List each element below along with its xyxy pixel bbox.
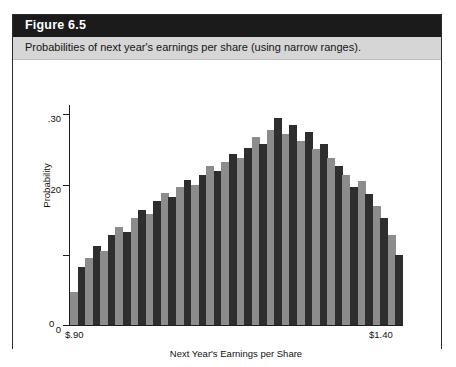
y-axis-tick [63, 255, 70, 256]
y-axis-tick [63, 325, 70, 326]
y-axis-tick-label: .20 [13, 179, 61, 197]
y-axis-title: Probability [41, 131, 52, 241]
y-axis-zero-label: 0 [49, 318, 54, 329]
x-axis-start-label: $.90 [65, 329, 84, 340]
chart-area: 0.20.30 Probability $.90 $1.40 Next Year… [13, 60, 441, 349]
figure-caption: Probabilities of next year's earnings pe… [25, 41, 361, 53]
bar [395, 255, 403, 325]
figure-title-bar: Figure 6.5 [13, 15, 441, 37]
x-axis-line [69, 325, 403, 326]
x-axis-end-label: $1.40 [369, 329, 393, 340]
figure-page: Figure 6.5 Probabilities of next year's … [0, 0, 456, 367]
y-axis-tick-label: .30 [13, 108, 61, 126]
figure-caption-band: Probabilities of next year's earnings pe… [13, 37, 441, 60]
y-axis-tick [63, 185, 70, 186]
x-axis-title: Next Year's Earnings per Share [69, 348, 403, 359]
figure-title: Figure 6.5 [25, 18, 86, 32]
bar-series [70, 105, 403, 325]
figure-box: Figure 6.5 Probabilities of next year's … [12, 14, 442, 349]
y-axis-tick [63, 114, 70, 115]
